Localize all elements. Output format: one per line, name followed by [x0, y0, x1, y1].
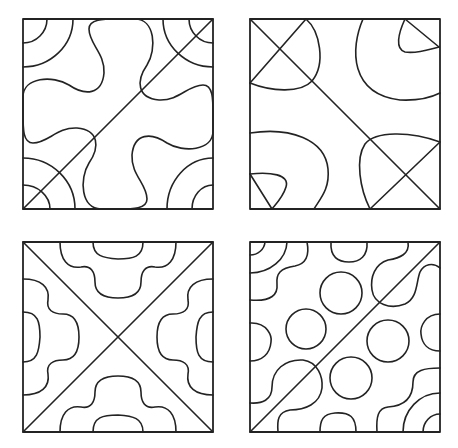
tile-curve	[377, 368, 440, 432]
tile-top-left-drawing	[23, 19, 213, 209]
tile-curve	[320, 413, 356, 432]
tile-circle	[286, 309, 326, 349]
tile-curve	[23, 19, 73, 67]
tile-curve	[399, 19, 439, 52]
tile-curve	[23, 19, 47, 43]
tile-curve	[250, 19, 306, 83]
tile-curve	[356, 19, 440, 100]
tile-top-right	[250, 19, 440, 209]
tile-curve	[250, 132, 328, 210]
tile-curve	[60, 376, 176, 432]
tile-curve	[423, 414, 440, 432]
tile-curve	[93, 242, 143, 259]
tile-curve	[421, 314, 440, 351]
tile-curve	[196, 312, 213, 362]
tile-top-right-drawing	[250, 19, 440, 209]
tile-top-left	[23, 19, 213, 209]
tile-curve	[250, 174, 272, 209]
tile-circle	[367, 320, 409, 362]
tile-curve	[331, 242, 367, 262]
tile-curve	[23, 19, 213, 209]
tile-circle	[330, 357, 372, 399]
tile-circle	[320, 272, 362, 314]
tile-curve	[250, 242, 287, 273]
tile-curve	[250, 242, 308, 300]
tile-bottom-left-drawing	[23, 242, 213, 432]
tile-curve	[167, 158, 213, 209]
tile-bottom-right-drawing	[250, 242, 440, 432]
tile-bottom-left	[23, 242, 213, 432]
tile-curve	[250, 242, 440, 432]
tile-curve	[250, 242, 265, 255]
tile-curve	[23, 312, 40, 362]
tile-curve	[157, 279, 213, 395]
tile-curve	[60, 242, 176, 298]
tile-curve	[405, 19, 439, 47]
tile-bottom-right	[250, 242, 440, 432]
tile-curve	[93, 415, 143, 432]
tile-curve	[23, 279, 79, 395]
tile-curve	[192, 185, 213, 209]
tile-curve	[250, 19, 440, 209]
tile-curve	[250, 323, 271, 361]
